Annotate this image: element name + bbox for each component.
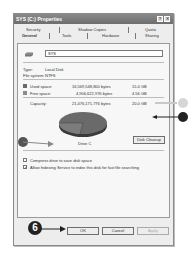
close-button[interactable]: ✕ xyxy=(164,16,170,22)
volume-name-input[interactable]: SYS xyxy=(45,50,163,57)
capacity-bytes: 21,476,171,776 bytes xyxy=(72,101,110,106)
divider xyxy=(23,97,164,98)
callout-dot-free-space xyxy=(178,98,188,108)
tab-divider xyxy=(49,33,50,39)
used-space-label: Used space: xyxy=(30,84,52,89)
used-space-swatch xyxy=(23,84,27,88)
tab-quota[interactable]: Quota xyxy=(145,27,156,32)
tab-shadow-copies[interactable]: Shadow Copies xyxy=(78,27,106,32)
ok-button[interactable]: OK xyxy=(67,227,99,235)
capacity-size: 20.0 GB xyxy=(132,101,147,106)
capacity-label: Capacity: xyxy=(30,101,47,106)
tab-row-2: General Tools Hardware Sharing xyxy=(18,33,169,40)
free-space-swatch xyxy=(23,91,27,95)
cancel-button[interactable]: Cancel xyxy=(102,227,134,235)
pie-free-slice xyxy=(59,123,83,134)
disk-usage-pie-chart xyxy=(58,110,108,140)
indexing-checkbox[interactable]: ✓ xyxy=(23,165,27,169)
used-space-size: 15.4 GB xyxy=(132,84,147,89)
tab-divider xyxy=(135,33,136,39)
help-button[interactable]: ? xyxy=(157,16,163,22)
title-bar[interactable]: SYS (C:) Properties ? ✕ xyxy=(14,14,173,24)
tab-divider xyxy=(87,33,88,39)
tab-general[interactable]: General xyxy=(22,33,37,38)
callout-dot-capacity xyxy=(178,112,188,122)
free-space-size: 4.56 GB xyxy=(132,91,147,96)
compress-checkbox[interactable] xyxy=(23,158,27,162)
tab-hardware[interactable]: Hardware xyxy=(102,33,119,38)
file-system-label: File system: xyxy=(23,73,44,78)
type-value: Local Disk xyxy=(45,67,63,72)
window-title: SYS (C:) Properties xyxy=(16,16,62,22)
type-label: Type: xyxy=(23,67,33,72)
step-number-badge: 6 xyxy=(28,221,42,235)
disk-cleanup-button[interactable]: Disk Cleanup xyxy=(133,136,165,144)
used-space-bytes: 16,569,548,800 bytes xyxy=(72,84,110,89)
tab-security[interactable]: Security xyxy=(26,27,40,32)
indexing-label[interactable]: Allow Indexing Service to index this dis… xyxy=(30,165,139,170)
apply-button[interactable]: Apply xyxy=(137,227,169,235)
free-space-label: Free space: xyxy=(30,91,51,96)
tab-tools[interactable]: Tools xyxy=(62,33,71,38)
compress-label[interactable]: Compress drive to save disk space xyxy=(30,158,92,163)
properties-dialog: SYS (C:) Properties ? ✕ Security Shadow … xyxy=(13,13,174,246)
general-tab-panel: SYS Type: Local Disk File system: NTFS U… xyxy=(17,43,170,218)
divider xyxy=(23,150,164,151)
divider xyxy=(23,79,164,80)
free-space-bytes: 4,906,622,976 bytes xyxy=(76,91,112,96)
divider xyxy=(23,62,164,63)
drive-label: Drive C xyxy=(78,141,91,146)
tab-sharing[interactable]: Sharing xyxy=(145,33,159,38)
hard-drive-icon xyxy=(24,52,34,57)
file-system-value: NTFS xyxy=(45,73,55,78)
